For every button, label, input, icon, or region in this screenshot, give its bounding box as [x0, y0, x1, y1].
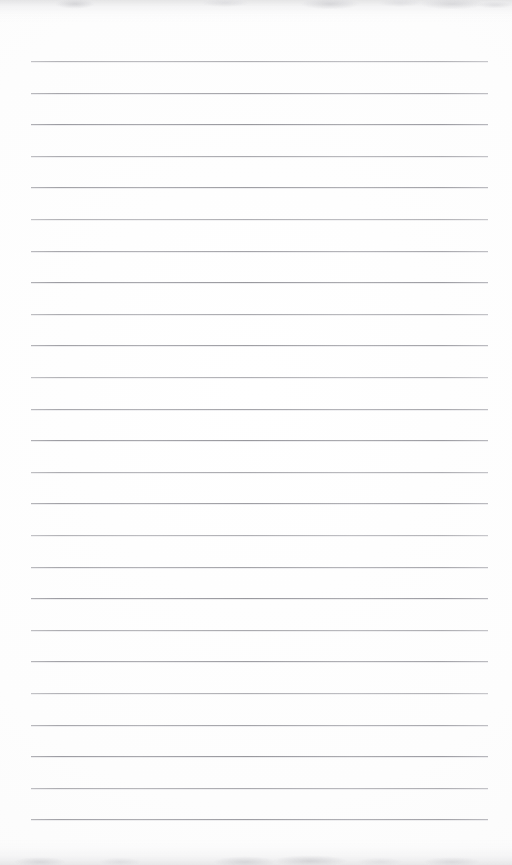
rule-line: [31, 630, 488, 631]
rule-line: [31, 314, 488, 315]
rule-line: [31, 93, 488, 94]
rule-line: [31, 535, 488, 536]
rule-line: [31, 503, 488, 504]
rule-line: [31, 819, 488, 820]
rule-line: [31, 187, 488, 188]
rule-line: [31, 251, 488, 252]
ruled-lines-layer: [0, 0, 512, 865]
rule-line: [31, 725, 488, 726]
rule-line: [31, 61, 488, 62]
rule-line: [31, 661, 488, 662]
rule-line: [31, 124, 488, 125]
scan-smudge-bottom: [0, 839, 512, 865]
rule-line: [31, 693, 488, 694]
rule-line: [31, 788, 488, 789]
rule-line: [31, 472, 488, 473]
rule-line: [31, 756, 488, 757]
rule-line: [31, 567, 488, 568]
rule-line: [31, 156, 488, 157]
rule-line: [31, 409, 488, 410]
rule-line: [31, 598, 488, 599]
rule-line: [31, 282, 488, 283]
rule-line: [31, 440, 488, 441]
notepad-page: [0, 0, 512, 865]
rule-line: [31, 345, 488, 346]
rule-line: [31, 377, 488, 378]
rule-line: [31, 219, 488, 220]
